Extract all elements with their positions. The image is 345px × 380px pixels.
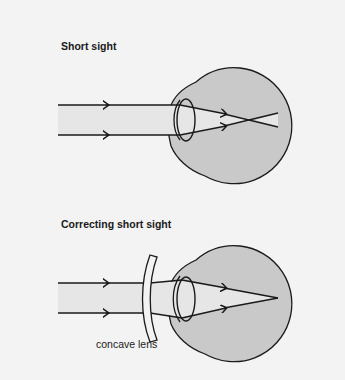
correcting-short-sight-panel xyxy=(58,246,292,362)
short-sight-panel xyxy=(58,68,292,184)
short-sight-diagram xyxy=(0,0,345,380)
